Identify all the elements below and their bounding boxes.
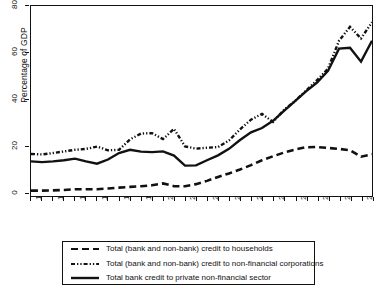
legend-label-households: Total (bank and non-bank) credit to hous…	[106, 244, 273, 254]
x-tick-mark	[163, 197, 164, 201]
x-tick-mark	[74, 197, 75, 201]
y-tick-mark	[25, 5, 29, 6]
series-line	[31, 147, 372, 191]
y-axis-title: Percentage of GDP	[19, 5, 29, 125]
legend-item-bank-credit: Total bank credit to private non-financi…	[63, 271, 314, 286]
x-tick-mark	[207, 197, 208, 201]
y-tick-label: 0	[10, 184, 19, 200]
y-tick-mark	[25, 52, 29, 53]
x-tick-mark	[52, 197, 53, 201]
legend-label-corporations: Total (bank and non-bank) credit to non-…	[106, 259, 323, 269]
x-tick-mark	[318, 197, 319, 201]
x-tick-mark	[251, 197, 252, 201]
series-canvas	[31, 6, 372, 196]
x-tick-mark	[185, 197, 186, 201]
x-tick-mark	[273, 197, 274, 201]
plot-area	[30, 5, 373, 197]
legend-key-dashed	[70, 244, 100, 254]
legend-label-bank-credit: Total bank credit to private non-financi…	[106, 273, 271, 283]
y-tick-label: 60	[10, 43, 19, 59]
x-tick-mark	[96, 197, 97, 201]
y-tick-label: 80	[10, 0, 19, 13]
x-tick-mark	[30, 197, 31, 201]
legend-key-dash-dot-dotted	[70, 259, 100, 269]
x-tick-mark	[119, 197, 120, 201]
y-tick-mark	[25, 193, 29, 194]
legend-key-solid	[70, 273, 100, 283]
x-tick-mark	[340, 197, 341, 201]
legend-item-corporations: Total (bank and non-bank) credit to non-…	[63, 257, 314, 272]
legend-item-households: Total (bank and non-bank) credit to hous…	[63, 242, 314, 257]
legend-box: Total (bank and non-bank) credit to hous…	[62, 241, 315, 285]
x-tick-mark	[229, 197, 230, 201]
chart-figure: Percentage of GDP 020406080 198919911993…	[0, 0, 381, 290]
x-tick-mark	[362, 197, 363, 201]
x-tick-mark	[141, 197, 142, 201]
series-line	[31, 22, 372, 154]
y-tick-mark	[25, 146, 29, 147]
x-tick-mark	[296, 197, 297, 201]
y-tick-label: 40	[10, 90, 19, 106]
y-tick-label: 20	[10, 137, 19, 153]
y-tick-mark	[25, 99, 29, 100]
